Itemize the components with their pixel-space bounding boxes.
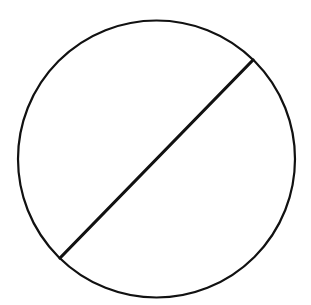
diagonal-chord-line [60, 60, 253, 258]
diagram-canvas [0, 0, 311, 305]
